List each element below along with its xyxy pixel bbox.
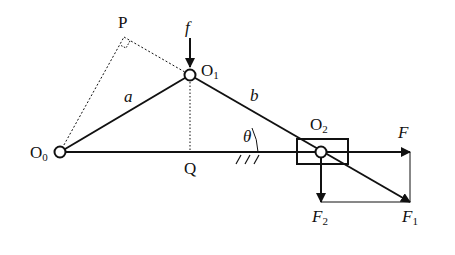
- mechanism-diagram: O0 O1 O2 P Q a b θ f F F1 F2: [0, 0, 455, 255]
- label-O1: O1: [201, 61, 219, 81]
- label-theta: θ: [243, 127, 251, 146]
- joint-O2: [316, 147, 327, 158]
- joint-O0: [55, 147, 66, 158]
- label-F: F: [397, 123, 409, 142]
- joint-O1: [185, 70, 196, 81]
- label-b: b: [250, 86, 259, 105]
- angle-theta-arc: [252, 128, 258, 152]
- label-F1: F1: [401, 207, 418, 227]
- label-Q: Q: [184, 159, 196, 178]
- ground-hatch: [236, 155, 259, 164]
- label-O0: O0: [30, 143, 48, 163]
- label-O2: O2: [310, 115, 328, 135]
- label-f: f: [185, 18, 192, 37]
- perpendicular-P-O1: [124, 37, 190, 75]
- label-F2: F2: [311, 207, 328, 227]
- perpendicular-O0-P: [60, 37, 124, 152]
- label-a: a: [124, 87, 133, 106]
- label-P: P: [118, 13, 127, 32]
